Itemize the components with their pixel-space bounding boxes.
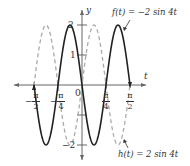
- chart-svg: [0, 0, 190, 166]
- tick-half-pi: π2: [126, 92, 134, 111]
- y-tick-1: 1: [70, 51, 76, 60]
- f-callout-arrow-icon: [123, 27, 127, 31]
- h-callout-arrow-icon: [123, 139, 127, 143]
- y-axis-up-arrow-icon: [80, 10, 84, 15]
- y-axis-label: y: [86, 6, 91, 15]
- origin-label: 0: [75, 89, 81, 98]
- f-function-label: f(t) = −2 sin 4t: [112, 8, 177, 17]
- tick-quarter-pi: π4: [102, 92, 110, 111]
- t-axis-right-arrow-icon: [141, 83, 146, 87]
- t-axis-label: t: [144, 72, 148, 81]
- t-axis-left-arrow-icon: [14, 83, 19, 87]
- tick-neg-half-pi: π2: [32, 92, 40, 111]
- y-tick-neg2: −2: [62, 141, 75, 150]
- y-axis-down-arrow-icon: [80, 155, 84, 160]
- tick-neg-quarter-pi: π4: [57, 92, 65, 111]
- h-function-label: h(t) = 2 sin 4t: [118, 150, 178, 159]
- y-tick-2: 2: [68, 21, 74, 30]
